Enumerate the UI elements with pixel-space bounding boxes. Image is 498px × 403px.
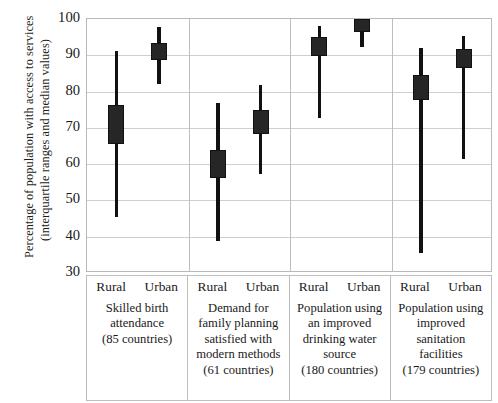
median-box (210, 150, 226, 178)
group-description: Population usingan improveddrinking wate… (294, 301, 385, 378)
category-label-rural: Rural (96, 279, 126, 295)
group-description-line: (180 countries) (297, 363, 382, 378)
label-group: RuralUrbanDemand forfamily planningsatis… (188, 276, 289, 400)
gridline (87, 200, 491, 201)
median-box (456, 49, 472, 69)
group-description-line: satisfied with (196, 332, 280, 347)
category-label-rural: Rural (400, 279, 430, 295)
category-label-urban: Urban (246, 279, 279, 295)
median-box (413, 75, 429, 100)
group-description-line: family planning (196, 316, 280, 331)
y-axis-tick-label: 100 (50, 10, 80, 24)
category-label-table: RuralUrbanSkilled birthattendance(85 cou… (86, 275, 492, 401)
group-description-line: modern methods (196, 347, 280, 362)
group-separator (189, 19, 190, 271)
group-description-line: Demand for (196, 301, 280, 316)
median-box (354, 19, 370, 32)
median-box (253, 110, 269, 135)
y-axis-tick-label: 30 (50, 264, 80, 278)
y-axis-tick-label: 60 (50, 155, 80, 169)
gridline (87, 164, 491, 165)
gridline (87, 92, 491, 93)
group-description-line: Population using (297, 301, 382, 316)
rural-urban-labels: RuralUrban (290, 279, 390, 295)
plot-area (86, 18, 492, 272)
category-label-urban: Urban (347, 279, 380, 295)
label-group: RuralUrbanSkilled birthattendance(85 cou… (87, 276, 188, 400)
y-axis-tick-label: 50 (50, 191, 80, 205)
group-description-line: (85 countries) (102, 332, 172, 347)
group-description: Skilled birthattendance(85 countries) (99, 301, 175, 347)
group-separator (290, 19, 291, 271)
y-axis-tick-label: 40 (50, 228, 80, 242)
y-axis-tick-label: 80 (50, 83, 80, 97)
group-description-line: (179 countries) (398, 363, 483, 378)
group-description-line: sanitation (398, 332, 483, 347)
group-description-line: Skilled birth (102, 301, 172, 316)
group-description-line: (61 countries) (196, 363, 280, 378)
group-description-line: Population using (398, 301, 483, 316)
gridline (87, 128, 491, 129)
rural-urban-labels: RuralUrban (391, 279, 491, 295)
group-description-line: facilities (398, 347, 483, 362)
y-axis-title-line-1: Percentage of population with access to … (22, 22, 38, 258)
group-description-line: improved (398, 316, 483, 331)
group-description-line: attendance (102, 316, 172, 331)
median-box (151, 43, 167, 60)
category-label-urban: Urban (145, 279, 178, 295)
group-separator (392, 19, 393, 271)
median-box (311, 37, 327, 56)
rural-urban-labels: RuralUrban (87, 279, 187, 295)
category-label-rural: Rural (299, 279, 329, 295)
median-box (108, 105, 124, 144)
rural-urban-labels: RuralUrban (188, 279, 288, 295)
category-label-rural: Rural (198, 279, 228, 295)
category-label-urban: Urban (448, 279, 481, 295)
y-axis-tick-labels: 10090807060504030 (48, 0, 80, 290)
label-group: RuralUrbanPopulation usingimprovedsanita… (391, 276, 491, 400)
y-axis-tick-label: 70 (50, 119, 80, 133)
gridline (87, 55, 491, 56)
group-description: Population usingimprovedsanitationfacili… (395, 301, 486, 378)
chart-figure: Percentage of population with access to … (0, 0, 498, 403)
group-description-line: drinking water (297, 332, 382, 347)
y-axis-tick-label: 90 (50, 46, 80, 60)
label-group: RuralUrbanPopulation usingan improveddri… (290, 276, 391, 400)
group-description-line: an improved (297, 316, 382, 331)
group-description: Demand forfamily planningsatisfied withm… (193, 301, 283, 378)
gridline (87, 237, 491, 238)
group-description-line: source (297, 347, 382, 362)
